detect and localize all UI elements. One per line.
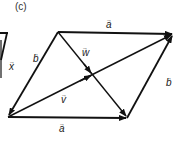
label-v: v — [61, 95, 66, 105]
vector-w-mid-arrow — [84, 64, 91, 73]
vector-a-bottom — [8, 117, 126, 118]
vector-a-top — [58, 32, 172, 34]
parallelogram-vector-diagram — [0, 0, 181, 141]
partial-left-figure — [0, 33, 8, 78]
label-b-left: b — [33, 54, 39, 64]
panel-label: (c) — [15, 2, 27, 12]
vector-b-left — [9, 32, 58, 115]
label-w: w — [82, 48, 89, 58]
label-a-top: a — [106, 20, 112, 30]
label-b-right: b — [166, 78, 172, 88]
vector-v-mid-arrow — [80, 76, 91, 82]
vector-w-diagonal — [58, 32, 126, 116]
label-x-partial: x — [9, 62, 14, 72]
label-a-bottom: a — [59, 124, 65, 134]
